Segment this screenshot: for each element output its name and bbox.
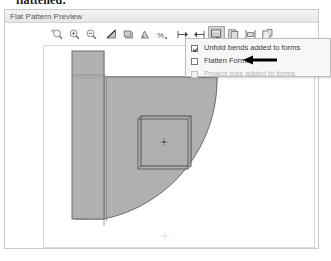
menu-item-project-cuts: Project cuts added to forms xyxy=(186,68,330,80)
bend-lines-icon[interactable] xyxy=(103,26,120,43)
panel-title: Flat Pattern Preview xyxy=(10,11,82,22)
zoom-fit-icon[interactable] xyxy=(49,26,66,43)
annotation-arrow-icon xyxy=(243,55,277,65)
page-heading-cutoff: flattened: xyxy=(16,0,66,8)
menu-item-unfold-bends[interactable]: Unfold bends added to forms xyxy=(186,42,330,54)
checkbox-project-cuts xyxy=(191,71,198,78)
menu-item-label: Project cuts added to forms xyxy=(204,69,295,79)
left-flange xyxy=(72,51,104,219)
zoom-out-icon[interactable] xyxy=(83,26,100,43)
checkbox-unfold-bends[interactable] xyxy=(191,45,198,52)
canvas-origin-marker xyxy=(161,232,169,240)
quarter-circle-arc xyxy=(104,77,217,219)
zoom-in-icon[interactable] xyxy=(66,26,83,43)
checkbox-flatten-forms[interactable] xyxy=(191,58,198,65)
svg-text:%: % xyxy=(157,30,164,39)
panel-titlebar: Flat Pattern Preview xyxy=(5,10,318,23)
bend-order-icon[interactable]: % xyxy=(154,26,171,43)
menu-item-label: Unfold bends added to forms xyxy=(204,43,300,53)
bend-extents-icon[interactable] xyxy=(120,26,137,43)
bend-angle-icon[interactable] xyxy=(137,26,154,43)
